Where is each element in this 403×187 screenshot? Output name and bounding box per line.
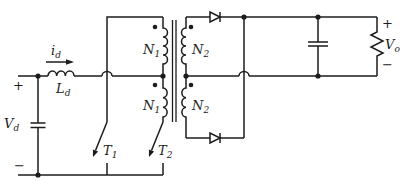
label-input-minus: − [14,159,25,172]
polarity-dot [153,25,158,30]
wire-output-rail-mid [186,72,377,77]
label-input-current: id [51,44,61,57]
polarity-dot [189,83,194,88]
polarity-dot [189,25,194,30]
junction-dot [315,14,320,19]
diode-top [186,12,244,22]
transformer-secondary-top-winding [182,17,187,76]
label-switch-t1: T1 [103,144,117,157]
transformer-primary-bottom-winding [163,76,167,122]
label-input-plus: + [13,79,24,92]
output-capacitor [308,17,328,76]
junction-dot [35,73,40,78]
label-output-minus: − [382,58,393,71]
transformer-core [173,20,177,122]
junction-dot [160,73,165,78]
junction-dot [183,73,188,78]
label-output-plus: + [382,17,393,30]
inductor-Ld-coil [48,71,74,76]
circuit-diagram: id Ld + Vd − T1 T2 N1 N1 N2 N2 + Vo − [0,0,403,187]
transformer-primary-top-winding [163,17,168,76]
input-capacitor-Vd [31,76,46,175]
polarity-dot [153,83,158,88]
junction-dot [315,73,320,78]
label-primary-top: N1 [143,43,160,56]
diode-bottom [186,133,244,143]
junction-dot [241,14,246,19]
label-primary-bottom: N1 [143,99,160,112]
transformer-secondary-bottom-winding [182,76,186,138]
label-secondary-top: N2 [192,43,209,56]
label-input-inductor: Ld [56,82,70,95]
junction-dots [35,14,320,177]
label-switch-t2: T2 [158,144,172,157]
junction-dot [35,172,40,177]
label-input-voltage: Vd [4,117,19,130]
current-arrow-id [46,59,74,64]
label-secondary-bottom: N2 [192,99,209,112]
label-output-voltage: Vo [385,38,400,51]
